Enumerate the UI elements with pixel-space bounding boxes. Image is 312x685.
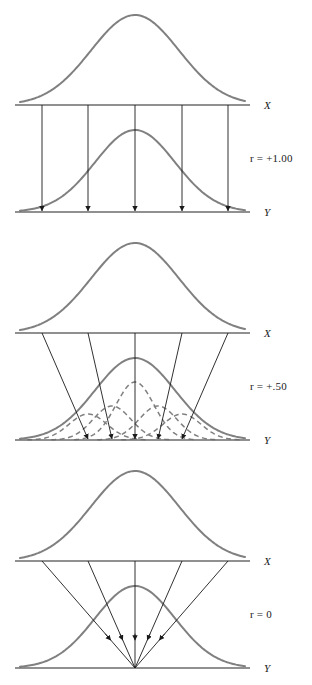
y-distribution-curve (20, 586, 245, 667)
y-distribution-curve (20, 130, 245, 211)
connector-line-1 (88, 333, 112, 439)
y-axis-label: Y (264, 662, 272, 674)
correlation-value-label: r = +.50 (250, 380, 287, 392)
connector-line-3 (158, 333, 182, 439)
y-axis-label: Y (264, 206, 272, 218)
conditional-distribution-curve-4 (121, 414, 243, 440)
correlation-value-label: r = +1.00 (250, 152, 293, 164)
x-distribution-curve (20, 243, 245, 330)
x-distribution-curve (20, 471, 245, 558)
correlation-value-label: r = 0 (250, 608, 272, 620)
connector-line-4 (135, 561, 228, 668)
x-distribution-curve (20, 15, 245, 102)
connector-line-3 (135, 561, 182, 668)
correlation-panel-2: XYr = 0 (0, 456, 312, 684)
correlation-panel-0: XYr = +1.00 (0, 0, 312, 228)
panel-canvas: XY (0, 456, 312, 684)
y-axis-label: Y (264, 434, 272, 446)
x-axis-label: X (263, 327, 272, 339)
x-axis-label: X (263, 555, 272, 567)
connector-line-0 (42, 561, 135, 668)
panel-canvas: XY (0, 228, 312, 456)
connector-line-1 (88, 561, 135, 668)
connector-arrowhead-0 (105, 634, 111, 640)
connector-arrowhead-4 (159, 634, 165, 640)
panel-canvas: XY (0, 0, 312, 228)
correlation-figure: XYr = +1.00XYr = +.50XYr = 0 (0, 0, 312, 685)
connector-arrowhead-1 (120, 634, 123, 640)
connector-arrowhead-3 (147, 634, 150, 640)
correlation-panel-1: XYr = +.50 (0, 228, 312, 456)
x-axis-label: X (263, 99, 272, 111)
